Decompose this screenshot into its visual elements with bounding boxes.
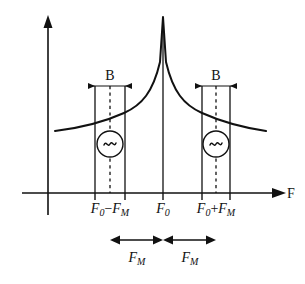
svg-text:FM: FM [128, 250, 147, 267]
svg-text:F0+FM: F0+FM [196, 201, 236, 218]
y-axis [44, 15, 53, 215]
y-axis-arrowhead [44, 15, 53, 28]
tick-left-main: F [90, 201, 100, 216]
x-axis-ticks [95, 193, 230, 200]
left-bandwidth-label: B [105, 68, 114, 83]
offset-left-main: F [128, 250, 138, 265]
right-offset-arrow [163, 236, 216, 245]
svg-text:F0−FM: F0−FM [90, 201, 130, 218]
right-bandwidth-label: B [211, 68, 220, 83]
tick-center-sub1: 0 [165, 207, 170, 218]
tick-right-main2: F [217, 201, 227, 216]
offset-right-sub: M [189, 256, 199, 267]
tick-center-main: F [155, 201, 165, 216]
tick-left-main2: F [111, 201, 121, 216]
tick-label-left: F0−FM [90, 201, 130, 218]
x-axis-label: F [287, 186, 295, 201]
svg-text:F0: F0 [155, 201, 170, 218]
tick-right-sub2: M [226, 207, 236, 218]
offset-right-main: F [181, 250, 191, 265]
tick-right-op: + [210, 201, 218, 216]
offset-left-sub: M [136, 256, 146, 267]
right-band [195, 83, 237, 193]
tick-right-main: F [196, 201, 206, 216]
svg-text:FM: FM [181, 250, 200, 267]
right-offset-label: FM [181, 250, 200, 267]
left-source-symbol [97, 131, 123, 157]
tick-left-op: − [104, 201, 112, 216]
right-source-symbol [203, 131, 229, 157]
x-axis-arrowhead [272, 188, 286, 198]
tick-left-sub2: M [120, 207, 130, 218]
tick-label-right: F0+FM [196, 201, 236, 218]
left-band [88, 83, 132, 193]
left-offset-label: FM [128, 250, 147, 267]
response-curve [55, 17, 266, 131]
left-offset-arrow [110, 236, 163, 245]
x-axis [22, 188, 286, 198]
spectrum-figure: B B F F0−FM F0 F0+FM FM [0, 0, 305, 284]
tick-label-center: F0 [155, 201, 170, 218]
